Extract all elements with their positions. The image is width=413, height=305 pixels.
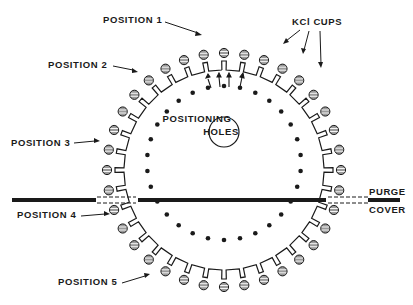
kcl-cup [329,205,338,214]
label-position-5: POSITION 5 [58,276,117,287]
kcl-cup [179,56,188,65]
positioning-hole [222,84,227,89]
positioning-hole [295,137,300,142]
positioning-hole [145,169,150,174]
positioning-hole [149,185,154,190]
positioning-hole [279,109,284,114]
kcl-cup [240,281,249,290]
kcl-cup [335,145,344,154]
positioning-hole [149,137,154,142]
kcl-cup [278,267,287,276]
positioning-hole [298,153,303,158]
kcl-cup [144,76,153,85]
positioning-hole [155,199,160,204]
kcl-cup [161,267,170,276]
kcl-cup [130,90,139,99]
positioning-hole [190,90,195,95]
kcl-cup [240,50,249,59]
kcl-cup [295,76,304,85]
positioning-hole [145,153,150,158]
kcl-cup [161,64,170,73]
label-purge: PURGE [369,186,406,197]
label-position-2: POSITION 2 [48,59,107,70]
positioning-hole [253,90,258,95]
kcl-cup [144,255,153,264]
label-positioning-holes-1: POSITIONING [163,113,232,124]
kcl-cup [219,48,228,57]
kcl-cup [321,224,330,233]
positioning-hole [267,98,272,103]
kcl-cup [102,165,111,174]
purge-cover [12,197,400,203]
positioning-hole [295,185,300,190]
label-position-1: POSITION 1 [103,14,162,25]
kcl-cup [309,241,318,250]
positioning-hole [253,231,258,236]
positioning-hole [267,223,272,228]
kcl-cup [278,64,287,73]
kcl-cup [335,186,344,195]
kcl-cup [199,50,208,59]
label-positioning-holes-2: HOLES [203,126,239,137]
kcl-cup [329,125,338,134]
kcl-cup-wheel-diagram: POSITION 1 POSITION 2 POSITION 3 POSITIO… [0,0,413,305]
kcl-cup [259,275,268,284]
positioning-hole [176,98,181,103]
kcl-cup [110,125,119,134]
label-position-4: POSITION 4 [17,209,76,220]
positioning-hole [238,236,243,241]
kcl-cup [118,224,127,233]
positioning-holes [145,84,303,243]
kcl-cup [118,107,127,116]
kcl-cup [110,205,119,214]
positioning-hole [190,231,195,236]
label-position-3: POSITION 3 [11,137,70,148]
kcl-cup [179,275,188,284]
kcl-cup [130,241,139,250]
kcl-cup [259,56,268,65]
positioning-hole [279,212,284,217]
positioning-hole [206,85,211,90]
positioning-hole [206,236,211,241]
positioning-hole [155,122,160,127]
label-cover: COVER [369,204,406,215]
positioning-hole [222,238,227,243]
positioning-hole [288,199,293,204]
kcl-cup [321,107,330,116]
kcl-cup [336,165,345,174]
positioning-hole [176,223,181,228]
kcl-cup [104,145,113,154]
label-kcl-cups: KCl CUPS [292,16,342,27]
kcl-cup [104,186,113,195]
kcl-cup [219,282,228,291]
positioning-hole [288,122,293,127]
kcl-cup [309,90,318,99]
kcl-cup [295,255,304,264]
positioning-hole [165,212,170,217]
kcl-cup [199,281,208,290]
positioning-hole [298,169,303,174]
